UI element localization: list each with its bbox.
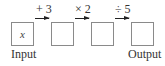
operation-multiply-label: × 2 [75,2,91,17]
arrow-right-icon [35,18,49,19]
operation-divide-label: ÷ 5 [115,2,131,17]
input-variable: x [12,28,33,40]
arrow-right-icon [115,18,129,19]
step2-box [91,22,114,46]
step1-box [51,22,74,46]
input-label: Input [11,47,36,62]
output-label: Output [128,47,161,62]
arrow-right-icon [75,18,89,19]
input-box: x [11,22,34,46]
operation-add-label: + 3 [36,2,52,17]
output-box [131,22,154,46]
